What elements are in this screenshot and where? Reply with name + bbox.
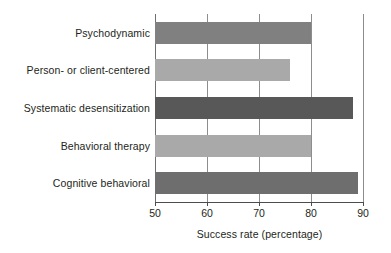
- category-label: Systematic desensitization: [2, 102, 150, 114]
- tick-mark-90: [363, 202, 364, 206]
- category-axis-labels: PsychodynamicPerson- or client-centeredS…: [0, 14, 150, 202]
- category-label: Cognitive behavioral: [2, 177, 150, 189]
- x-tick-label: 70: [244, 207, 274, 220]
- x-tick-label: 80: [296, 207, 326, 220]
- tick-mark-80: [311, 202, 312, 206]
- bar: [155, 172, 358, 194]
- category-label: Psychodynamic: [2, 27, 150, 39]
- x-tick-label: 90: [348, 207, 378, 220]
- bar: [155, 59, 290, 81]
- tick-mark-60: [207, 202, 208, 206]
- bar: [155, 135, 311, 157]
- plot-area: [155, 14, 363, 202]
- bar: [155, 97, 353, 119]
- x-tick-label: 60: [192, 207, 222, 220]
- bar: [155, 22, 311, 44]
- tick-mark-50: [155, 202, 156, 206]
- category-label: Behavioral therapy: [2, 140, 150, 152]
- x-axis-title: Success rate (percentage): [155, 228, 364, 240]
- category-label: Person- or client-centered: [2, 64, 150, 76]
- x-tick-label: 50: [140, 207, 170, 220]
- gridline-90: [363, 14, 364, 202]
- tick-mark-70: [259, 202, 260, 206]
- bar-chart: PsychodynamicPerson- or client-centeredS…: [0, 0, 391, 253]
